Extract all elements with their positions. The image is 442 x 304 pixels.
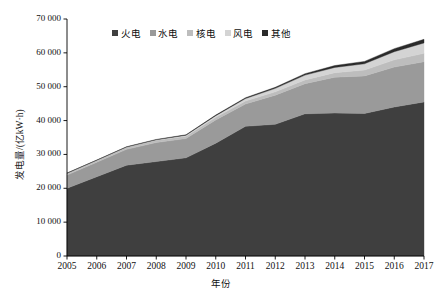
x-tick-label: 2006	[81, 261, 113, 271]
legend-item-火电[interactable]: 火电	[112, 26, 141, 40]
y-tick-label: 20 000	[10, 182, 61, 192]
x-tick-label: 2009	[170, 261, 202, 271]
x-axis-title: 年份	[0, 276, 442, 290]
x-tick-label: 2016	[378, 261, 410, 271]
x-tick-label: 2014	[319, 261, 351, 271]
x-tick-label: 2005	[51, 261, 83, 271]
y-axis-title: 发电量/(亿kW·h)	[12, 109, 26, 180]
x-tick-label: 2015	[349, 261, 381, 271]
legend-label: 火电	[121, 26, 141, 40]
legend-label: 其他	[271, 26, 291, 40]
legend-item-其他[interactable]: 其他	[262, 26, 291, 40]
x-tick-label: 2012	[259, 261, 291, 271]
chart-figure: 010 00020 00030 00040 00050 00060 00070 …	[0, 0, 442, 304]
y-tick-label: 60 000	[10, 47, 61, 57]
legend-swatch-icon	[225, 30, 231, 36]
x-tick-label: 2011	[230, 261, 262, 271]
legend-label: 核电	[196, 26, 216, 40]
x-tick-label: 2017	[408, 261, 440, 271]
x-tick-label: 2013	[289, 261, 321, 271]
chart-svg	[0, 0, 442, 304]
legend-swatch-icon	[112, 30, 118, 36]
legend-swatch-icon	[262, 30, 268, 36]
legend-item-风电[interactable]: 风电	[225, 26, 254, 40]
x-tick-label: 2008	[140, 261, 172, 271]
x-tick-label: 2007	[111, 261, 143, 271]
legend-swatch-icon	[187, 30, 193, 36]
chart-legend: 火电水电核电风电其他	[112, 26, 291, 40]
y-tick-label: 70 000	[10, 13, 61, 23]
legend-item-水电[interactable]: 水电	[150, 26, 179, 40]
legend-item-核电[interactable]: 核电	[187, 26, 216, 40]
y-tick-label: 10 000	[10, 216, 61, 226]
legend-label: 风电	[233, 26, 253, 40]
y-tick-label: 0	[10, 250, 61, 260]
y-tick-label: 50 000	[10, 81, 61, 91]
legend-label: 水电	[158, 26, 178, 40]
legend-swatch-icon	[150, 30, 156, 36]
x-tick-label: 2010	[200, 261, 232, 271]
